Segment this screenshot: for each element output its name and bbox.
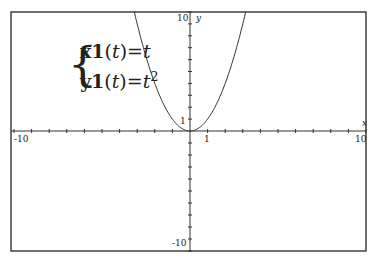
x-axis-label: x	[362, 118, 367, 128]
eq-y-arg: t	[112, 70, 120, 92]
plot-area	[0, 0, 378, 263]
x-max-label: 10	[355, 134, 366, 144]
parametric-equations: { x1(t)=t y1(t)=t2	[80, 38, 159, 94]
eq-x-arg: t	[112, 40, 120, 62]
x-one-label: 1	[204, 134, 210, 144]
brace: {	[68, 38, 97, 90]
y-max-label: 10	[177, 13, 188, 23]
y-one-label: 1	[180, 116, 186, 126]
eq-y-exp: 2	[150, 69, 158, 84]
y-min-label: -10	[172, 238, 187, 248]
x-min-label: -10	[14, 134, 29, 144]
y-axis-label: y	[196, 13, 201, 23]
eq-x-rhs: t	[143, 40, 151, 62]
